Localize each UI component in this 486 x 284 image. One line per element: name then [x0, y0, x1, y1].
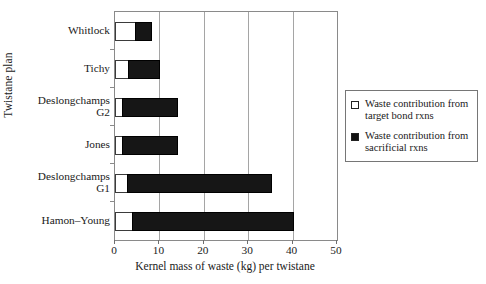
y-tick-mark: [110, 87, 114, 88]
open-square-icon: [351, 101, 359, 109]
y-tick-mark: [110, 163, 114, 164]
x-gridline: [248, 12, 249, 240]
x-tick-label: 40: [277, 244, 307, 256]
x-tick-label: 0: [99, 244, 129, 256]
y-tick-label: Jones: [18, 138, 110, 150]
bar-segment-sacrificial: [128, 60, 160, 79]
bar-segment-sacrificial: [132, 212, 294, 231]
bar-segment-target-bond: [115, 212, 133, 231]
y-axis-title: Twistane plan: [2, 35, 16, 135]
y-tick-label: Deslongchamps G2: [18, 94, 110, 119]
x-axis-title: Kernel mass of waste (kg) per twistane: [114, 260, 336, 272]
bar-group: [115, 136, 178, 155]
legend-entry: Waste contribution from sacrificial rxns: [351, 130, 471, 155]
bar-group: [115, 22, 152, 41]
filled-square-icon: [351, 133, 359, 141]
y-tick-label: Hamon–Young: [18, 214, 110, 226]
bar-chart-figure: Twistane plan WhitlockTichyDeslongchamps…: [0, 0, 486, 284]
x-tick-label: 10: [143, 244, 173, 256]
y-tick-mark: [110, 49, 114, 50]
legend-label: Waste contribution from target bond rxns: [365, 98, 471, 123]
plot-area: [114, 11, 338, 241]
bar-group: [115, 60, 160, 79]
y-tick-mark: [110, 201, 114, 202]
legend-entry: Waste contribution from target bond rxns: [351, 98, 471, 123]
bar-segment-target-bond: [115, 60, 129, 79]
bar-segment-target-bond: [115, 22, 136, 41]
y-tick-label: Tichy: [18, 62, 110, 74]
bar-segment-sacrificial: [135, 22, 152, 41]
bar-segment-sacrificial: [127, 174, 272, 193]
x-tick-label: 50: [321, 244, 351, 256]
bar-group: [115, 212, 294, 231]
bar-group: [115, 174, 272, 193]
legend-label: Waste contribution from sacrificial rxns: [365, 130, 471, 155]
chart-legend: Waste contribution from target bond rxns…: [345, 90, 478, 162]
x-tick-label: 20: [188, 244, 218, 256]
y-tick-mark: [110, 125, 114, 126]
y-axis-tick-labels: WhitlockTichyDeslongchamps G2JonesDeslon…: [18, 11, 110, 239]
bar-group: [115, 98, 178, 117]
bar-segment-sacrificial: [122, 98, 178, 117]
x-gridline: [159, 12, 160, 240]
y-tick-label: Deslongchamps G1: [18, 170, 110, 195]
x-tick-label: 30: [232, 244, 262, 256]
x-gridline: [204, 12, 205, 240]
bar-segment-sacrificial: [122, 136, 178, 155]
x-gridline: [293, 12, 294, 240]
y-tick-label: Whitlock: [18, 24, 110, 36]
